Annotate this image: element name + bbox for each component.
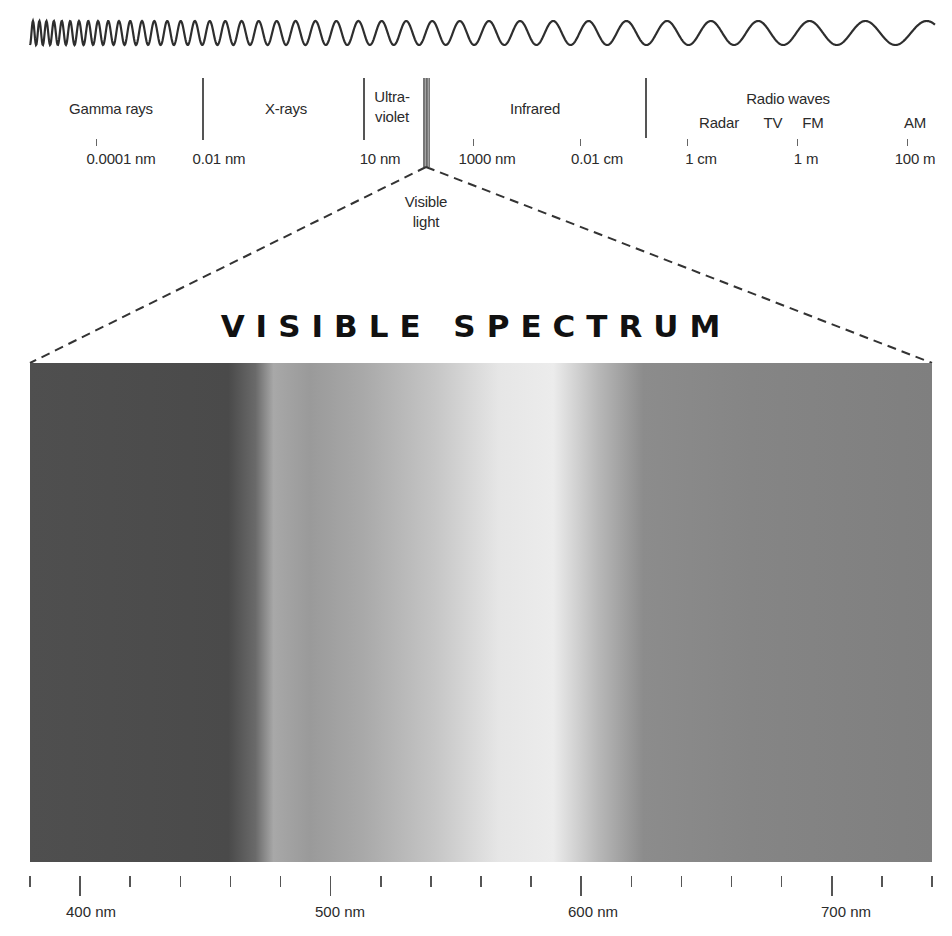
axis-minor-tick bbox=[380, 876, 382, 887]
axis-minor-tick bbox=[731, 876, 733, 887]
scale-tick bbox=[797, 139, 798, 146]
visible-spectrum-title: VISIBLE SPECTRUM bbox=[0, 308, 952, 344]
wavelength-label: 0.01 cm bbox=[571, 150, 623, 167]
region-label-ultraviolet: Ultra- violet bbox=[374, 87, 409, 127]
axis-minor-tick bbox=[881, 876, 883, 887]
divider-infrared-radio bbox=[645, 78, 647, 138]
region-label-xray: X-rays bbox=[265, 100, 307, 117]
visible-line1: Visible bbox=[405, 192, 448, 212]
uv-line1: Ultra- bbox=[374, 87, 409, 107]
subband-tv: TV bbox=[764, 114, 783, 131]
uv-line2: violet bbox=[374, 107, 409, 127]
region-label-gamma: Gamma rays bbox=[69, 100, 153, 117]
axis-minor-tick bbox=[931, 876, 933, 887]
wavelength-label: 1000 nm bbox=[459, 150, 516, 167]
axis-minor-tick bbox=[631, 876, 633, 887]
axis-label-500nm: 500 nm bbox=[315, 903, 365, 920]
axis-minor-tick bbox=[530, 876, 532, 887]
axis-label-400nm: 400 nm bbox=[66, 903, 116, 920]
axis-minor-tick bbox=[280, 876, 282, 887]
divider-xray-uv bbox=[363, 78, 365, 140]
axis-minor-tick bbox=[681, 876, 683, 887]
wavelength-wave bbox=[30, 21, 935, 45]
scale-tick bbox=[907, 139, 908, 146]
region-label-radio: Radio waves bbox=[746, 90, 830, 107]
visible-light-callout: Visible light bbox=[405, 192, 448, 232]
scale-tick bbox=[473, 139, 474, 146]
axis-major-tick bbox=[580, 876, 582, 896]
subband-radar: Radar bbox=[699, 114, 739, 131]
visible-line2: light bbox=[405, 212, 448, 232]
wavelength-label: 1 m bbox=[794, 150, 818, 167]
subband-am: AM bbox=[904, 114, 926, 131]
axis-minor-tick bbox=[129, 876, 131, 887]
axis-major-tick bbox=[79, 876, 81, 896]
axis-minor-tick bbox=[430, 876, 432, 887]
visible-light-band bbox=[423, 78, 430, 167]
divider-gamma-xray bbox=[202, 78, 204, 140]
subband-fm: FM bbox=[802, 114, 823, 131]
visible-spectrum-band bbox=[30, 363, 932, 862]
axis-minor-tick bbox=[29, 876, 31, 887]
axis-minor-tick bbox=[230, 876, 232, 887]
scale-tick bbox=[96, 139, 97, 146]
wave-diagram bbox=[0, 0, 952, 60]
wavelength-label: 0.0001 nm bbox=[86, 150, 155, 167]
wavelength-label: 0.01 nm bbox=[193, 150, 246, 167]
wavelength-label: 1 cm bbox=[685, 150, 717, 167]
region-label-infrared: Infrared bbox=[510, 100, 560, 117]
axis-minor-tick bbox=[480, 876, 482, 887]
axis-minor-tick bbox=[180, 876, 182, 887]
axis-major-tick bbox=[831, 876, 833, 896]
axis-major-tick bbox=[330, 876, 332, 896]
axis-label-600nm: 600 nm bbox=[568, 903, 618, 920]
wavelength-label: 100 m bbox=[895, 150, 936, 167]
axis-label-700nm: 700 nm bbox=[821, 903, 871, 920]
wavelength-label: 10 nm bbox=[360, 150, 401, 167]
scale-tick bbox=[687, 139, 688, 146]
scale-tick bbox=[580, 139, 581, 146]
axis-minor-tick bbox=[781, 876, 783, 887]
